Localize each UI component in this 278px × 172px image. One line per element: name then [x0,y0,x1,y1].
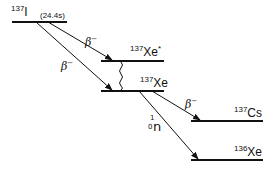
label-half-life: (24.4s) [40,12,65,20]
gamma-wavy-line [120,62,123,90]
label-xe136: 136Xe [234,145,262,158]
label-cs137: 137Cs [234,106,262,119]
label-neutron: 1 0 n [148,114,162,134]
label-beta-3: β− [185,98,197,110]
arrow-i-to-xe [36,22,112,90]
label-xe137-excited: 137Xe* [130,45,161,58]
label-xe137: 137Xe [140,76,168,89]
label-beta-1: β− [85,36,97,48]
label-i137: 137I [11,5,28,18]
label-beta-2: β− [61,60,73,72]
